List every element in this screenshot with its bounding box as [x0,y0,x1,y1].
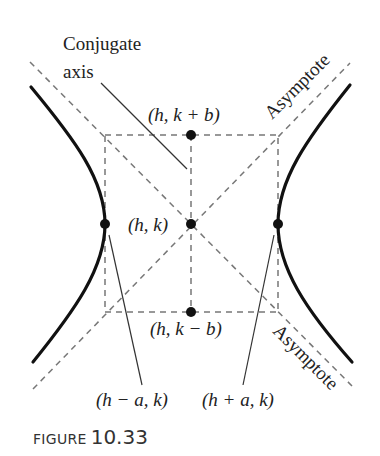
hyperbola-left-branch [31,87,105,362]
conjugate-axis-leader [101,83,187,169]
bottom-point-label: (h, k − b) [150,318,222,340]
right-vertex-label: (h + a, k) [202,389,274,411]
left-vertex-leader [109,235,142,385]
asymptote-lower-label: Asymptote [269,320,343,394]
conjugate-axis-label-line1: Conjugate [63,33,141,54]
center-point-label: (h, k) [128,214,168,236]
figure-caption: FIGURE10.33 [33,425,148,449]
asymptote-upper-label: Asymptote [260,49,334,123]
point-center [186,219,196,229]
figure-caption-number: 10.33 [91,425,148,449]
point-bottom [186,307,196,317]
right-vertex-leader [243,235,274,385]
left-vertex-label: (h − a, k) [96,389,168,411]
conjugate-axis-label-line2: axis [63,61,94,82]
top-point-label: (h, k + b) [148,104,220,126]
point-right-vertex [273,219,283,229]
point-left-vertex [100,219,110,229]
point-top [186,130,196,140]
figure-caption-word: FIGURE [33,431,87,447]
hyperbola-diagram: Conjugate axis (h, k + b) (h, k) (h, k −… [0,0,380,456]
